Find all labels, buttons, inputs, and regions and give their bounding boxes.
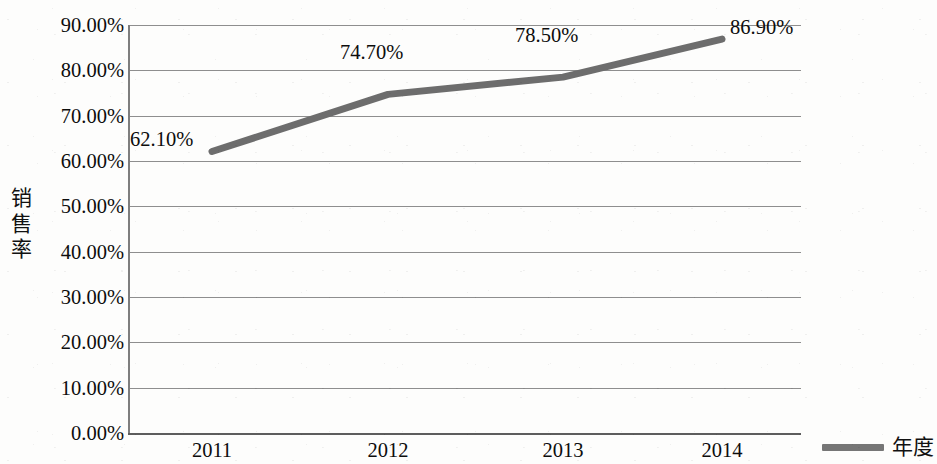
gridline <box>128 252 801 253</box>
data-point-label: 78.50% <box>515 25 578 46</box>
chart-figure: 销 售 率 90.00%80.00%70.00%60.00%50.00%40.0… <box>0 0 937 464</box>
legend-swatch-series <box>822 444 884 451</box>
y-axis-tick-label: 30.00% <box>4 287 124 308</box>
x-axis-tick-label: 2014 <box>677 440 767 461</box>
x-axis-tick-label: 2012 <box>343 440 433 461</box>
y-axis-tick-label: 0.00% <box>4 423 124 444</box>
y-axis-tick-label: 90.00% <box>4 15 124 36</box>
gridline <box>128 206 801 207</box>
y-axis-line <box>128 25 130 434</box>
legend: 年度 <box>822 437 934 458</box>
gridline <box>128 70 801 71</box>
data-point-label: 74.70% <box>340 42 403 63</box>
data-point-label: 62.10% <box>130 129 193 150</box>
gridline <box>128 161 801 162</box>
gridline <box>128 116 801 117</box>
data-point-label: 86.90% <box>730 17 793 38</box>
legend-label: 年度 <box>892 437 934 458</box>
y-axis-tick-labels: 90.00%80.00%70.00%60.00%50.00%40.00%30.0… <box>0 0 124 464</box>
y-axis-tick-label: 80.00% <box>4 60 124 81</box>
x-axis-tick-label: 2013 <box>518 440 608 461</box>
x-axis-tick-label: 2011 <box>167 440 257 461</box>
gridline <box>128 342 801 343</box>
y-axis-tick-label: 40.00% <box>4 242 124 263</box>
y-axis-tick-label: 50.00% <box>4 196 124 217</box>
plot-area <box>128 25 801 434</box>
y-axis-tick-label: 70.00% <box>4 106 124 127</box>
y-axis-tick-label: 20.00% <box>4 332 124 353</box>
gridline <box>128 297 801 298</box>
gridline <box>128 388 801 389</box>
y-axis-tick-label: 60.00% <box>4 151 124 172</box>
x-axis-line <box>128 433 801 435</box>
y-axis-tick-label: 10.00% <box>4 378 124 399</box>
gridline <box>128 25 801 26</box>
